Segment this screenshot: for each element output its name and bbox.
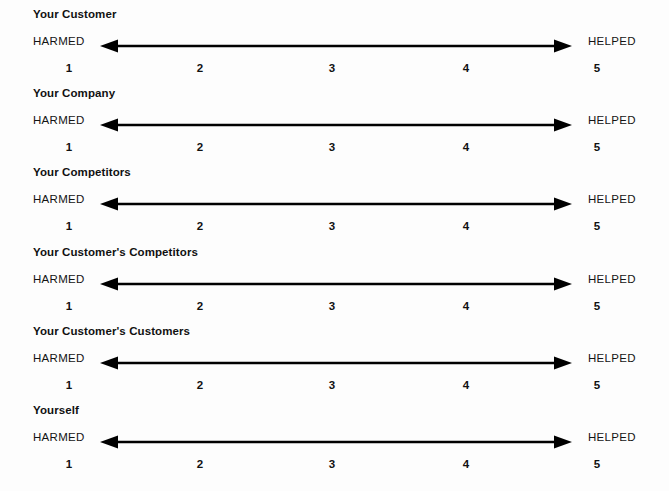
tick-label-group: 1 2 3 4 5 xyxy=(0,141,669,157)
tick-label[interactable]: 2 xyxy=(188,62,212,74)
tick-label[interactable]: 3 xyxy=(320,458,344,470)
tick-label[interactable]: 1 xyxy=(57,141,81,153)
scale-row: Your Customer's Competitors HARMED HELPE… xyxy=(0,246,669,324)
double-arrow-icon xyxy=(100,274,572,294)
tick-label[interactable]: 5 xyxy=(585,458,609,470)
tick-label-group: 1 2 3 4 5 xyxy=(0,458,669,474)
anchor-label-helped: HELPED xyxy=(588,114,636,126)
tick-label[interactable]: 3 xyxy=(320,300,344,312)
double-arrow-icon xyxy=(100,194,572,214)
scale-row: Your Company HARMED HELPED 1 2 3 4 5 xyxy=(0,87,669,165)
row-heading: Your Customer's Customers xyxy=(33,325,190,337)
tick-label[interactable]: 4 xyxy=(454,300,478,312)
anchor-label-helped: HELPED xyxy=(588,352,636,364)
tick-label[interactable]: 5 xyxy=(585,300,609,312)
tick-label[interactable]: 1 xyxy=(57,62,81,74)
tick-label[interactable]: 4 xyxy=(454,220,478,232)
tick-label-group: 1 2 3 4 5 xyxy=(0,220,669,236)
row-heading: Your Competitors xyxy=(33,166,131,178)
tick-label[interactable]: 2 xyxy=(188,220,212,232)
double-arrow-icon xyxy=(100,36,572,56)
scale-row: Your Customer HARMED HELPED 1 2 3 4 5 xyxy=(0,8,669,86)
anchor-label-harmed: HARMED xyxy=(33,273,85,285)
anchor-label-harmed: HARMED xyxy=(33,114,85,126)
tick-label[interactable]: 5 xyxy=(585,220,609,232)
impact-scale-worksheet: Your Customer HARMED HELPED 1 2 3 4 5 Yo… xyxy=(0,0,669,491)
tick-label[interactable]: 5 xyxy=(585,62,609,74)
tick-label[interactable]: 1 xyxy=(57,220,81,232)
anchor-label-helped: HELPED xyxy=(588,35,636,47)
tick-label[interactable]: 4 xyxy=(454,62,478,74)
tick-label[interactable]: 3 xyxy=(320,141,344,153)
scale-row: Yourself HARMED HELPED 1 2 3 4 5 xyxy=(0,404,669,482)
row-heading: Your Customer's Competitors xyxy=(33,246,198,258)
anchor-label-helped: HELPED xyxy=(588,193,636,205)
tick-label[interactable]: 2 xyxy=(188,141,212,153)
tick-label[interactable]: 1 xyxy=(57,300,81,312)
tick-label-group: 1 2 3 4 5 xyxy=(0,300,669,316)
scale-row: Your Customer's Customers HARMED HELPED … xyxy=(0,325,669,403)
tick-label[interactable]: 1 xyxy=(57,379,81,391)
scale-row: Your Competitors HARMED HELPED 1 2 3 4 5 xyxy=(0,166,669,244)
tick-label[interactable]: 2 xyxy=(188,300,212,312)
tick-label[interactable]: 2 xyxy=(188,458,212,470)
double-arrow-icon xyxy=(100,115,572,135)
double-arrow-icon xyxy=(100,353,572,373)
double-arrow-icon xyxy=(100,432,572,452)
tick-label[interactable]: 4 xyxy=(454,141,478,153)
row-heading: Your Customer xyxy=(33,8,117,20)
anchor-label-harmed: HARMED xyxy=(33,431,85,443)
anchor-label-harmed: HARMED xyxy=(33,35,85,47)
anchor-label-helped: HELPED xyxy=(588,273,636,285)
tick-label[interactable]: 4 xyxy=(454,458,478,470)
tick-label[interactable]: 1 xyxy=(57,458,81,470)
tick-label[interactable]: 3 xyxy=(320,220,344,232)
tick-label[interactable]: 3 xyxy=(320,379,344,391)
tick-label-group: 1 2 3 4 5 xyxy=(0,379,669,395)
tick-label[interactable]: 5 xyxy=(585,379,609,391)
anchor-label-helped: HELPED xyxy=(588,431,636,443)
tick-label[interactable]: 5 xyxy=(585,141,609,153)
tick-label[interactable]: 4 xyxy=(454,379,478,391)
anchor-label-harmed: HARMED xyxy=(33,352,85,364)
tick-label-group: 1 2 3 4 5 xyxy=(0,62,669,78)
row-heading: Your Company xyxy=(33,87,115,99)
tick-label[interactable]: 3 xyxy=(320,62,344,74)
row-heading: Yourself xyxy=(33,404,79,416)
anchor-label-harmed: HARMED xyxy=(33,193,85,205)
tick-label[interactable]: 2 xyxy=(188,379,212,391)
